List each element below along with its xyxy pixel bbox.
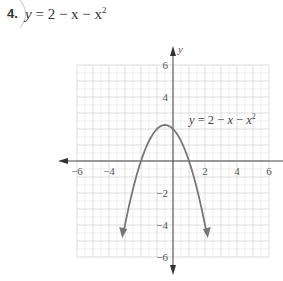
y-tick-label: 6 xyxy=(163,59,169,71)
y-tick-label: −2 xyxy=(156,187,168,199)
y-axis-top-arrow-icon xyxy=(170,46,176,56)
curve-right-arrow-icon xyxy=(203,227,211,238)
y-tick-label: −6 xyxy=(156,251,168,263)
y-axis-label: y xyxy=(177,43,183,55)
curve-equation-label: y = 2 − x − x2 xyxy=(187,112,256,127)
x-tick-label: 4 xyxy=(234,165,240,177)
x-tick-label: −4 xyxy=(103,165,115,177)
x-axis-arrow-icon xyxy=(58,158,68,164)
y-tick-label: 4 xyxy=(163,91,169,103)
x-tick-label: 6 xyxy=(266,165,272,177)
parabola-plot: y −6−424664−2−4−6 y = 2 − x − x2 xyxy=(0,0,283,281)
curve-labels: y = 2 − x − x2 xyxy=(187,112,256,127)
y-axis-bottom-arrow-icon xyxy=(170,265,176,275)
x-tick-label: −6 xyxy=(71,165,83,177)
y-tick-label: −4 xyxy=(156,219,168,231)
x-tick-label: 2 xyxy=(202,165,208,177)
curve-left-arrow-icon xyxy=(119,227,127,238)
axes: y xyxy=(58,43,283,275)
